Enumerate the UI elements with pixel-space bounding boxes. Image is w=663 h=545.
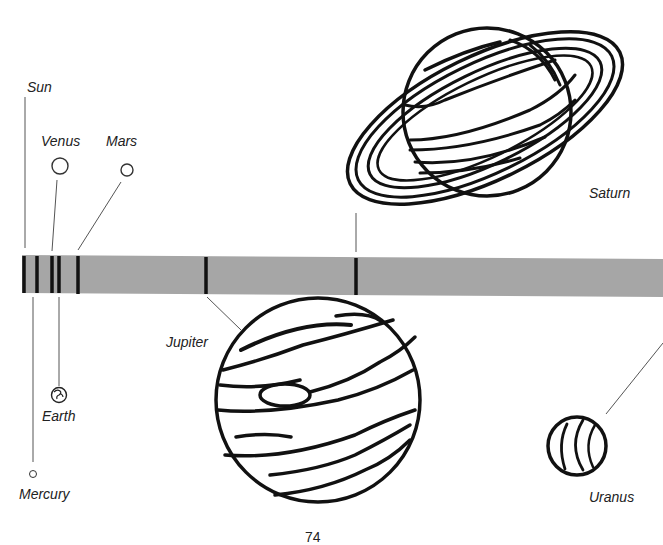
venus-icon bbox=[52, 158, 68, 174]
label-saturn: Saturn bbox=[589, 186, 630, 200]
label-mercury: Mercury bbox=[19, 487, 70, 501]
jupiter-leader bbox=[207, 297, 241, 330]
label-venus: Venus bbox=[41, 134, 80, 148]
jupiter-icon bbox=[216, 298, 420, 502]
earth-icon bbox=[52, 388, 67, 403]
uranus-leader bbox=[606, 343, 663, 414]
label-uranus: Uranus bbox=[589, 490, 634, 504]
mercury-icon bbox=[30, 471, 37, 478]
label-jupiter: Jupiter bbox=[166, 335, 208, 349]
mars-leader bbox=[78, 182, 121, 250]
label-sun: Sun bbox=[27, 80, 52, 94]
label-mars: Mars bbox=[106, 134, 137, 148]
uranus-icon bbox=[548, 417, 606, 475]
label-earth: Earth bbox=[42, 409, 75, 423]
venus-leader bbox=[52, 180, 57, 251]
saturn-icon bbox=[323, 0, 647, 239]
mars-icon bbox=[121, 164, 133, 176]
page-number: 74 bbox=[305, 530, 321, 544]
distance-scale-bar bbox=[22, 255, 663, 297]
